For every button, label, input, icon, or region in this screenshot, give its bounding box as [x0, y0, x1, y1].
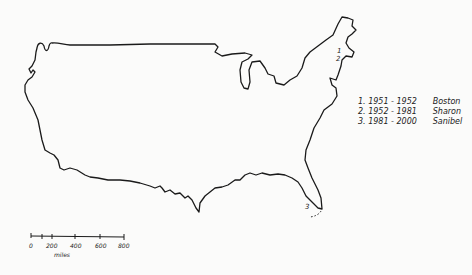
- scale-tick-200: 200: [46, 242, 57, 249]
- legend-entry-sanibel: 3. 1981 - 2000 Sanibel: [358, 117, 462, 127]
- scale-tick-600: 600: [95, 242, 106, 249]
- us-outline-map: [0, 0, 472, 275]
- legend: 1. 1951 - 1952 Boston 2. 1952 - 1981 Sha…: [358, 97, 462, 127]
- scale-bar: [31, 233, 124, 240]
- scale-unit-label: miles: [54, 251, 70, 258]
- legend-entry-sharon: 2. 1952 - 1981 Sharon: [358, 107, 462, 117]
- map-marker-2: 2: [336, 55, 340, 63]
- florida-keys: [310, 211, 321, 217]
- map-marker-3: 3: [305, 203, 309, 211]
- map-marker-1: 1: [337, 47, 341, 55]
- legend-entry-boston: 1. 1951 - 1952 Boston: [358, 97, 462, 107]
- scale-tick-400: 400: [70, 242, 81, 249]
- us-outline: [25, 17, 356, 212]
- scale-tick-800: 800: [118, 242, 129, 249]
- scale-tick-0: 0: [29, 242, 33, 249]
